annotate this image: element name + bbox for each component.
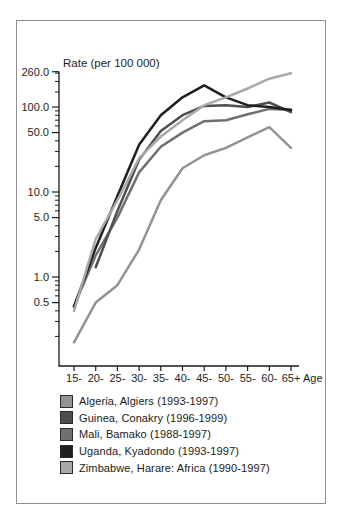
axes (59, 72, 299, 366)
legend-swatch-icon (60, 428, 73, 441)
legend-item-mali: Mali, Bamako (1988-1997) (60, 426, 270, 443)
legend: Algeria, Algiers (1993-1997)Guinea, Cona… (60, 393, 270, 476)
legend-label: Guinea, Conakry (1996-1999) (79, 412, 227, 424)
x-tick-label: 30- (131, 372, 147, 384)
y-tick-label: 0.5 (34, 296, 49, 308)
y-tick-label: 5.0 (34, 211, 49, 223)
y-tick-label: 50.0 (28, 126, 49, 138)
y-tick-label: 260.0 (21, 66, 49, 78)
x-tick-label: 50- (218, 372, 234, 384)
x-tick-label: 40- (175, 372, 191, 384)
x-tick-label: 20- (88, 372, 104, 384)
series-line-zimbabwe (74, 73, 291, 311)
legend-label: Mali, Bamako (1988-1997) (79, 428, 211, 440)
x-axis-label: Age (303, 372, 323, 384)
legend-label: Uganda, Kyadondo (1993-1997) (79, 445, 239, 457)
legend-swatch-icon (60, 445, 73, 458)
x-tick-label: 65+ (282, 372, 301, 384)
legend-item-algeria: Algeria, Algiers (1993-1997) (60, 393, 270, 410)
x-tick-label: 15- (66, 372, 82, 384)
y-axis-title: Rate (per 100 000) (63, 57, 160, 69)
x-tick-label: 55- (240, 372, 256, 384)
x-tick-label: 60- (261, 372, 277, 384)
legend-label: Algeria, Algiers (1993-1997) (79, 395, 218, 407)
legend-swatch-icon (60, 395, 73, 408)
legend-swatch-icon (60, 461, 73, 474)
legend-item-uganda: Uganda, Kyadondo (1993-1997) (60, 443, 270, 460)
series-line-uganda (74, 85, 291, 306)
y-tick-label: 100.0 (21, 101, 49, 113)
x-tick-label: 35- (153, 372, 169, 384)
legend-item-guinea: Guinea, Conakry (1996-1999) (60, 410, 270, 427)
y-tick-label: 10.0 (28, 186, 49, 198)
legend-swatch-icon (60, 411, 73, 424)
y-tick-label: 1.0 (34, 271, 49, 283)
legend-label: Zimbabwe, Harare: Africa (1990-1997) (79, 462, 270, 474)
series-line-mali (74, 109, 291, 307)
x-tick-label: 25- (109, 372, 125, 384)
legend-item-zimbabwe: Zimbabwe, Harare: Africa (1990-1997) (60, 459, 270, 476)
figure: 260.0100.050.010.05.01.00.515-20-25-30-3… (0, 0, 339, 517)
x-tick-label: 45- (196, 372, 212, 384)
